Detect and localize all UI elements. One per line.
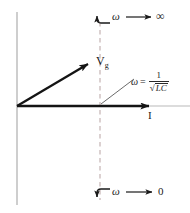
diagram-canvas <box>0 0 190 213</box>
resonance-leader-line <box>101 79 134 104</box>
current-label: I <box>148 110 152 121</box>
phasor-diagram-figure: Vg I ω ∞ ω 0 ω = 1 √LC <box>0 0 190 213</box>
vg-label-subscript: g <box>105 61 109 70</box>
omega-decreasing-hook-arrow <box>97 189 110 197</box>
zero-label: 0 <box>158 186 164 197</box>
omega-bottom-label: ω <box>112 186 120 197</box>
omega-increasing-hook-arrow <box>97 16 110 23</box>
resonance-omega-symbol: ω <box>131 77 138 87</box>
resonance-fraction: 1 √LC <box>149 71 169 93</box>
vg-label-text: V <box>96 54 105 68</box>
resonance-denominator-text: LC <box>155 83 168 93</box>
omega-top-label: ω <box>112 11 120 22</box>
resonance-formula-label: ω = 1 √LC <box>131 71 169 93</box>
resonance-numerator: 1 <box>154 71 163 81</box>
vg-vector <box>17 64 88 106</box>
vg-label: Vg <box>96 55 109 70</box>
resonance-equals-symbol: = <box>140 77 146 87</box>
infinity-label: ∞ <box>156 10 165 22</box>
resonance-denominator: √LC <box>149 82 169 93</box>
